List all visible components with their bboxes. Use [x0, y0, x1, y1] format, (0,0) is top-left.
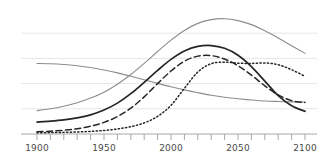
x-tick-label-1900: 1900	[25, 143, 49, 153]
data-series-group	[37, 19, 305, 133]
x-axis-ticks	[37, 134, 305, 140]
series-line-series-d-gray-rising-peak	[37, 19, 305, 111]
series-line-series-b-dashed-black	[37, 55, 305, 131]
series-line-series-e-gray-declining	[37, 63, 305, 102]
series-line-series-c-dotted-black	[37, 62, 305, 133]
x-tick-label-1950: 1950	[92, 143, 116, 153]
x-tick-label-2050: 2050	[226, 143, 250, 153]
x-tick-label-2000: 2000	[159, 143, 183, 153]
chart-plot-area	[0, 0, 318, 164]
gridlines	[21, 33, 317, 109]
x-tick-label-2100: 2100	[293, 143, 317, 153]
line-chart: 19001950200020502100	[0, 0, 318, 164]
